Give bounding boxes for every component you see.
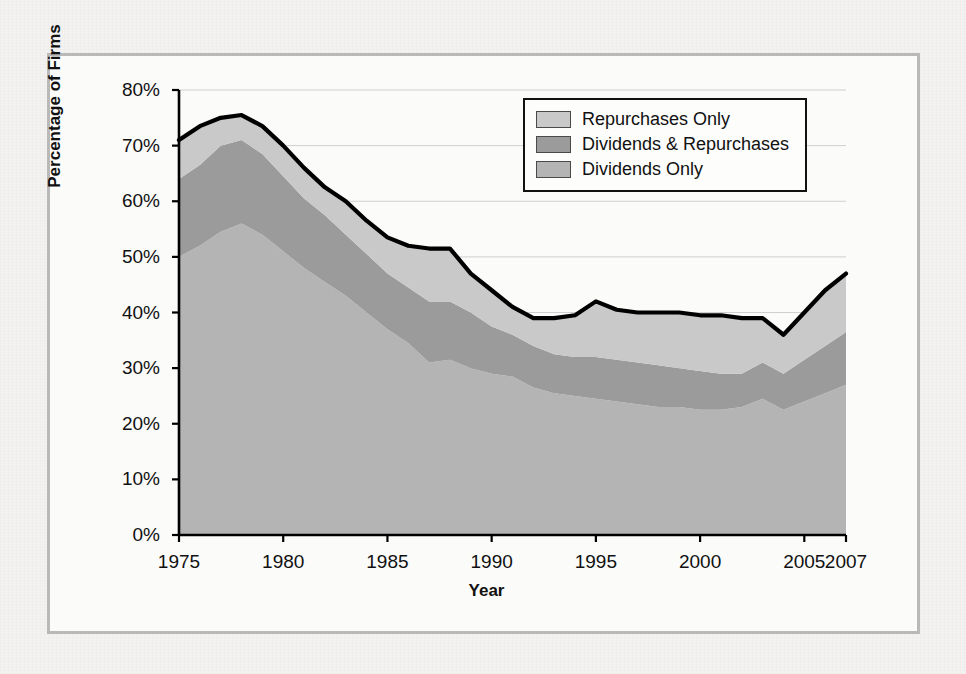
x-tick-label: 1975 [158, 551, 200, 573]
legend-label: Dividends & Repurchases [582, 134, 789, 155]
x-tick-label: 2007 [825, 551, 867, 573]
legend-swatch-icon [536, 161, 571, 178]
y-tick-label: 50% [90, 246, 160, 268]
legend-label: Dividends Only [582, 159, 703, 180]
x-tick-label: 2005 [783, 551, 825, 573]
legend-item-0: Repurchases Only [536, 107, 789, 132]
y-tick-label: 80% [90, 79, 160, 101]
x-tick-label: 2000 [679, 551, 721, 573]
x-axis-title: Year [50, 581, 923, 601]
y-tick-label: 0% [90, 524, 160, 546]
x-tick-label: 1990 [471, 551, 513, 573]
x-tick-label: 1980 [262, 551, 304, 573]
y-tick-label: 10% [90, 468, 160, 490]
figure-frame: Percentage of Firms Year 0%10%20%30%40%5… [47, 53, 920, 634]
x-tick-label: 1985 [366, 551, 408, 573]
x-tick-label: 1995 [575, 551, 617, 573]
chart-legend: Repurchases OnlyDividends & RepurchasesD… [523, 98, 807, 192]
y-tick-label: 30% [90, 357, 160, 379]
x-axis-tick-labels: 19751980198519901995200020052007 [50, 545, 923, 575]
legend-swatch-icon [536, 111, 571, 128]
y-axis-title: Percentage of Firms [45, 0, 65, 226]
y-tick-label: 20% [90, 413, 160, 435]
y-tick-label: 70% [90, 135, 160, 157]
chart-figure: Percentage of Firms Year 0%10%20%30%40%5… [50, 56, 917, 631]
legend-label: Repurchases Only [582, 109, 730, 130]
legend-item-2: Dividends Only [536, 157, 789, 182]
y-tick-label: 40% [90, 302, 160, 324]
legend-item-1: Dividends & Repurchases [536, 132, 789, 157]
y-tick-label: 60% [90, 190, 160, 212]
legend-swatch-icon [536, 136, 571, 153]
